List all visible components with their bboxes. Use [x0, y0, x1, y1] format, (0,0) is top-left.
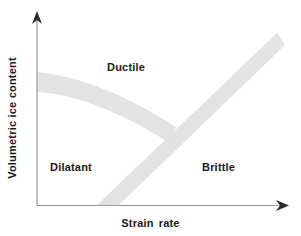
x-axis-title-word-2: rate [159, 217, 180, 229]
region-label-brittle: Brittle [202, 161, 235, 173]
diagram-canvas [0, 0, 301, 236]
region-label-dilatant: Dilatant [50, 161, 92, 173]
y-axis-title: Volumetric ice content [0, 0, 24, 236]
region-label-ductile: Ductile [107, 61, 145, 73]
ductile-brittle-boundary-band [96, 33, 285, 206]
x-axis-title-word-1: Strain [121, 217, 153, 229]
phase-diagram-figure: Ductile Dilatant Brittle Strainrate Volu… [0, 0, 301, 236]
ductile-dilatant-boundary-band [37, 72, 176, 142]
x-axis-title: Strainrate [0, 217, 301, 229]
